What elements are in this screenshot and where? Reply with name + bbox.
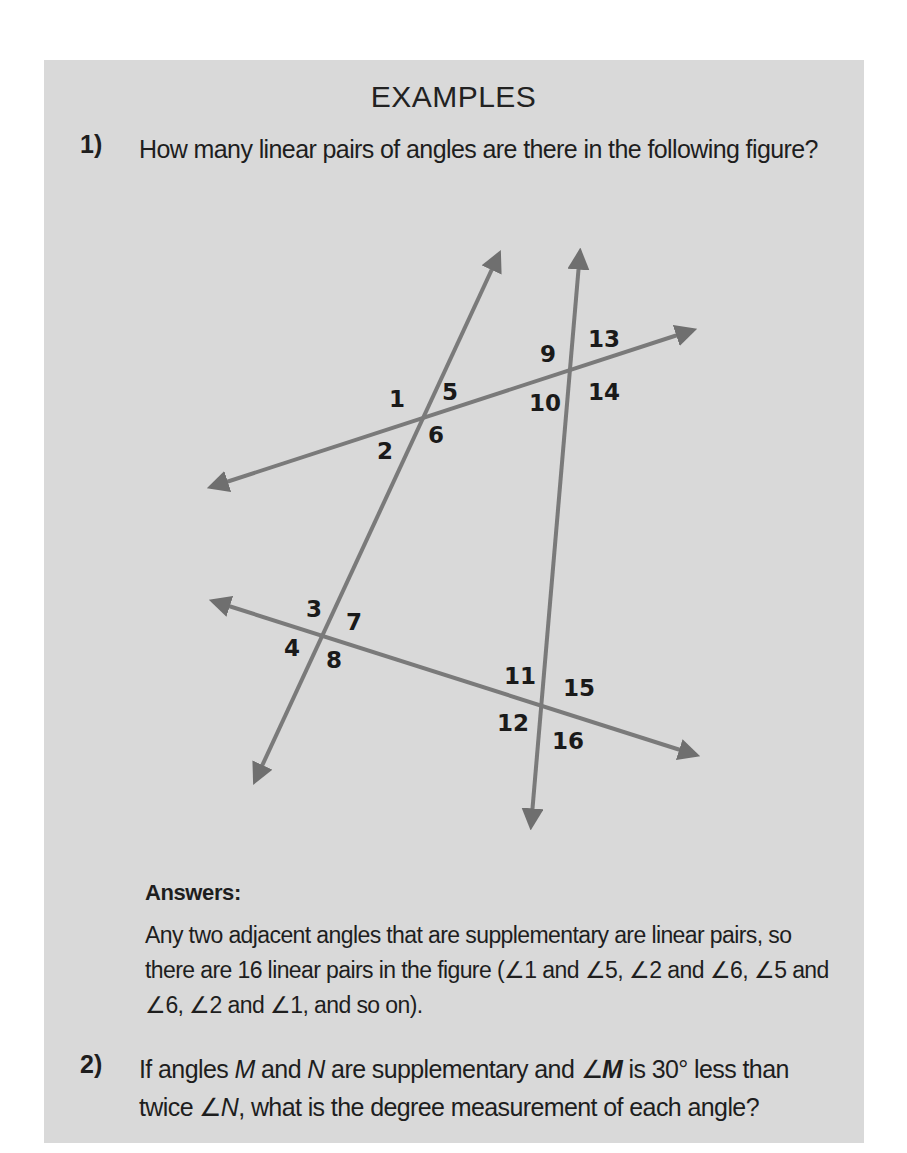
angle-label-2: 2 — [377, 438, 393, 464]
example-1-answer: Any two adjacent angles that are supplem… — [145, 918, 845, 1023]
angle-label-16: 16 — [552, 728, 584, 754]
line-lower — [213, 601, 696, 755]
angle-label-4: 4 — [284, 635, 300, 661]
angle-label-9: 9 — [540, 341, 556, 367]
angle-label-3: 3 — [306, 596, 322, 622]
angle-label-13: 13 — [588, 326, 620, 352]
q2-var-n: N — [221, 1093, 238, 1121]
line-left-transversal — [255, 254, 499, 781]
angle-label-1: 1 — [389, 386, 405, 412]
example-2-question: If angles M and N are supplementary and … — [139, 1050, 849, 1126]
q2-text: and — [255, 1055, 308, 1083]
angle-label-6: 6 — [428, 422, 444, 448]
angle-label-11: 11 — [504, 663, 536, 689]
q2-var-n: N — [307, 1055, 324, 1083]
angle-label-10: 10 — [529, 390, 561, 416]
q2-var-m: M — [234, 1055, 254, 1083]
angle-label-14: 14 — [588, 379, 620, 405]
angle-label-8: 8 — [326, 647, 342, 673]
q2-text: If angles — [139, 1055, 234, 1083]
angle-label-5: 5 — [442, 379, 458, 405]
angle-label-7: 7 — [346, 609, 362, 635]
angle-label-15: 15 — [563, 675, 595, 701]
answers-heading: Answers: — [145, 880, 241, 906]
q2-var-m-bold: M — [602, 1055, 622, 1083]
angle-label-12: 12 — [497, 710, 529, 736]
q2-text: , what is the degree measurement of each… — [238, 1093, 759, 1121]
example-2-number: 2) — [80, 1050, 102, 1079]
q2-text: are supplementary and ∠ — [325, 1055, 602, 1083]
